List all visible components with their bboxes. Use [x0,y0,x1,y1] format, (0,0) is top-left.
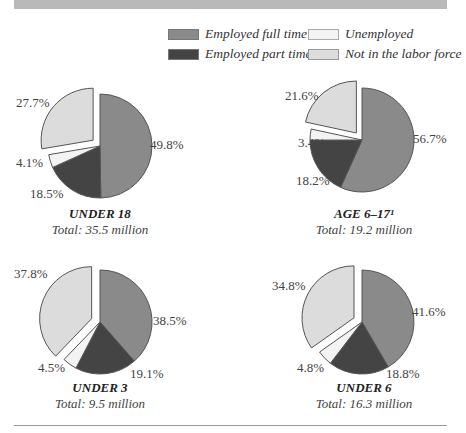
pie-label-unemp: 4.8% [297,360,324,375]
chart-title: UNDER 18 [0,206,200,222]
pie-label-nilf: 27.7% [16,95,50,110]
pie-label-part: 18.2% [296,173,330,188]
pie-label-full: 56.7% [413,131,447,146]
chart-title: AGE 6–17¹ [264,206,464,222]
pie-label-part: 18.8% [386,366,420,381]
chart-total: Total: 19.2 million [264,222,464,238]
pie-label-part: 19.1% [130,366,164,381]
chart-caption-under-3: UNDER 3 Total: 9.5 million [0,380,200,412]
chart-total: Total: 16.3 million [264,396,464,412]
chart-caption-under-6: UNDER 6 Total: 16.3 million [264,380,464,412]
pie-label-full: 41.6% [412,304,446,319]
pie-label-unemp: 4.5% [38,360,65,375]
chart-total: Total: 35.5 million [0,222,200,238]
pie-label-unemp: 3.4% [298,135,325,150]
pie-label-full: 49.8% [150,137,184,152]
chart-caption-age-6-17: AGE 6–17¹ Total: 19.2 million [264,206,464,238]
pie-label-nilf: 37.8% [14,266,48,281]
chart-title: UNDER 3 [0,380,200,396]
pie-slice-full [100,94,152,198]
pie-label-nilf: 34.8% [272,278,306,293]
pie-label-nilf: 21.6% [285,88,319,103]
chart-total: Total: 9.5 million [0,396,200,412]
chart-title: UNDER 6 [264,380,464,396]
pie-label-part: 18.5% [30,186,64,201]
pie-label-full: 38.5% [153,313,187,328]
bottom-rule [14,425,447,426]
chart-caption-under-18: UNDER 18 Total: 35.5 million [0,206,200,238]
pie-label-unemp: 4.1% [16,155,43,170]
